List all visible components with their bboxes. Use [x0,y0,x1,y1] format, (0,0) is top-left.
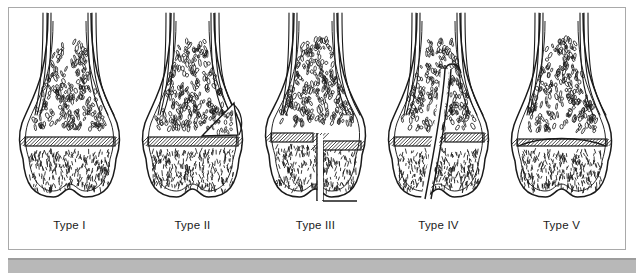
bone-illustration-type-4 [377,11,500,219]
panel-type-1: Type I [8,7,131,250]
bone-illustration-type-5 [500,11,623,219]
panel-label-type-1: Type I [8,219,131,231]
panel-label-type-3: Type III [254,219,377,231]
bone-drawing [385,13,499,199]
panel-label-type-2: Type II [131,219,254,231]
bone-drawing [139,13,253,197]
panel-type-3: Type III [254,7,377,250]
bone-illustration-type-3 [254,11,377,219]
panel-row: Type IType IIType IIIType IVType V [8,7,626,250]
panel-type-4: Type IV [377,7,500,250]
bottom-bar-highlight [8,258,636,260]
panel-type-5: Type V [500,7,623,250]
panel-label-type-5: Type V [500,219,623,231]
panel-label-type-4: Type IV [377,219,500,231]
bottom-gray-bar [8,258,636,273]
salter-harris-figure: Type IType IIType IIIType IVType V [0,0,636,278]
bone-drawing [510,13,619,197]
bone-drawing [16,13,130,197]
bone-illustration-type-1 [8,11,131,219]
panel-type-2: Type II [131,7,254,250]
bone-drawing [262,13,377,201]
bone-illustration-type-2 [131,11,254,219]
